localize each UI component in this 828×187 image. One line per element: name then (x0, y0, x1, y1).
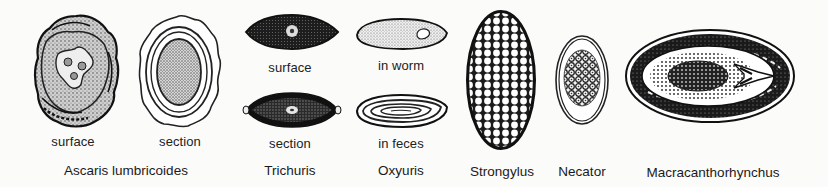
ascaris-surface-label: surface (51, 134, 94, 149)
oxyuris-in-feces-label: in feces (378, 136, 424, 151)
trichuris-surface-illustration (244, 13, 340, 51)
ascaris-surface-illustration (32, 12, 120, 130)
trichuris-name-label: Trichuris (264, 163, 315, 178)
strongylus-illustration (465, 9, 537, 151)
necator-illustration (554, 34, 610, 126)
oxyuris-in-worm-illustration (355, 17, 449, 51)
ascaris-name-label: Ascaris lumbricoides (64, 163, 188, 178)
trichuris-section-illustration (242, 91, 342, 129)
trichuris-section-label: section (269, 136, 311, 151)
strongylus-name-label: Strongylus (470, 164, 534, 179)
macracanthorhynchus-name-label: Macracanthorhynchus (647, 165, 780, 180)
macracanthorhynchus-illustration (624, 28, 796, 124)
oxyuris-in-worm-label: in worm (378, 58, 424, 73)
oxyuris-in-feces-illustration (355, 93, 449, 129)
trichuris-surface-label: surface (268, 60, 311, 75)
ascaris-section-label: section (159, 134, 201, 149)
ascaris-section-illustration (136, 12, 222, 130)
necator-name-label: Necator (558, 164, 605, 179)
oxyuris-name-label: Oxyuris (378, 163, 424, 178)
